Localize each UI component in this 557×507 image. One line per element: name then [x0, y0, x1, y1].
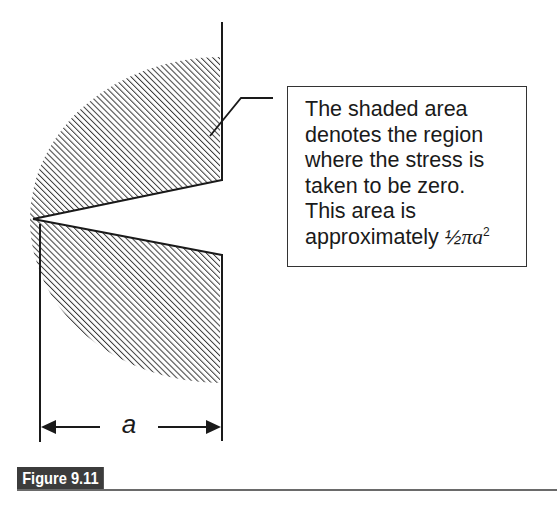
formula-pi: π — [462, 225, 473, 249]
callout-line: taken to be zero. — [305, 174, 518, 200]
figure-rule — [17, 489, 557, 491]
callout-formula-line: approximately ½πa2 — [305, 225, 518, 251]
callout-line: This area is — [305, 199, 518, 225]
dimension-label: a — [114, 409, 144, 440]
callout-line: denotes the region — [305, 123, 518, 149]
formula-exponent: 2 — [483, 224, 490, 238]
callout-line: approximately — [305, 225, 439, 249]
figure-label: Figure 9.11 — [17, 467, 104, 491]
shaded-region — [30, 57, 221, 383]
arrowhead-right-icon — [206, 420, 221, 434]
arrowhead-left-icon — [41, 420, 56, 434]
callout-box: The shaded area denotes the region where… — [287, 86, 527, 267]
callout-line: where the stress is — [305, 148, 518, 174]
formula-fraction: ½ — [445, 226, 462, 248]
callout-line: The shaded area — [305, 97, 518, 123]
formula-variable: a — [472, 225, 483, 249]
